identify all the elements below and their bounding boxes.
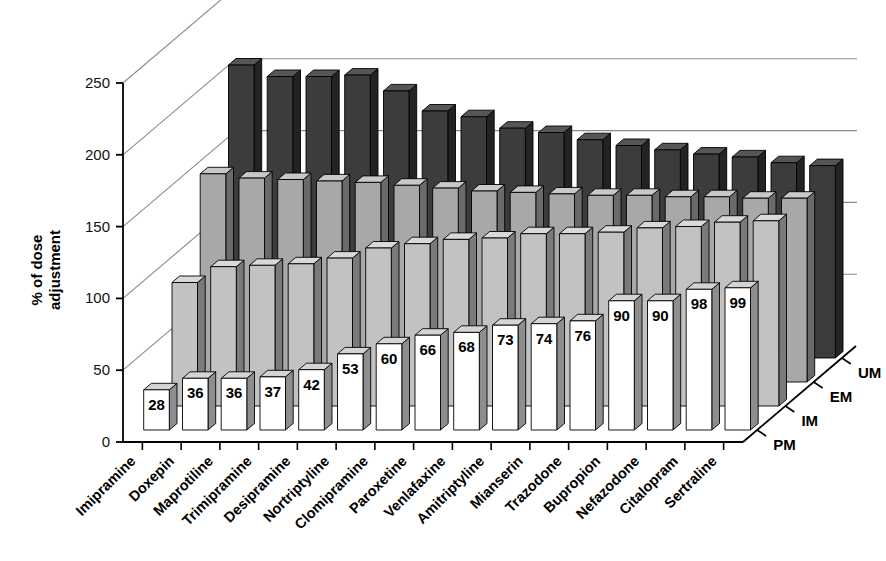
bar-side-PM-7 [441,329,449,430]
y-axis-tick-label: 250 [85,74,110,91]
bar-side-PM-3 [286,370,294,430]
y-axis-title-group: % of doseadjustment [28,230,63,310]
bar-side-PM-6 [402,337,410,430]
depth-axis-tick [785,406,794,412]
bar-value-label-5: 53 [342,360,359,377]
bar-value-label-9: 73 [497,331,514,348]
x-axis-category-label-0: Imipramine [72,453,138,519]
bar-side-PM-9 [518,319,526,430]
bar-value-label-15: 99 [729,294,746,311]
y-axis-title-line1: % of dose [28,235,45,306]
gridline-diagonal [123,0,236,83]
bar-value-label-3: 37 [264,383,281,400]
gridline-diagonal [123,59,236,155]
bar-value-label-10: 74 [536,330,553,347]
bar-value-label-0: 28 [148,396,165,413]
depth-axis-label-IM: IM [801,412,818,429]
depth-axis-label-UM: UM [858,364,881,381]
depth-axis-label-EM: EM [830,388,853,405]
bar-side-PM-10 [557,317,565,430]
bar-value-label-4: 42 [303,376,320,393]
bar-side-PM-12 [634,294,642,430]
bar-value-label-12: 90 [613,307,630,324]
bar-side-PM-11 [596,314,604,430]
y-axis-tick-label: 150 [85,218,110,235]
bar-side-EM-15 [807,192,815,382]
bar-value-label-11: 76 [574,327,591,344]
chart-figure: 050100150200250% of doseadjustment999890… [0,0,886,561]
y-axis-tick-label: 100 [85,289,110,306]
bar-side-PM-8 [479,326,487,430]
depth-axis-label-PM: PM [773,436,796,453]
bar-chart-3d: 050100150200250% of doseadjustment999890… [0,0,886,561]
bar-side-PM-4 [324,363,332,430]
bar-side-PM-14 [712,283,720,430]
bar-value-label-2: 36 [226,384,243,401]
y-axis-title-line2: adjustment [46,230,63,310]
bar-side-PM-5 [363,347,371,430]
bar-value-label-7: 66 [419,341,436,358]
bar-side-PM-0 [169,383,177,430]
bar-value-label-13: 90 [652,307,669,324]
x-axis-category-label-9: Amitriptyline [413,453,487,527]
depth-axis-tick [814,382,823,388]
depth-axis-tick [757,430,766,436]
bar-value-label-6: 60 [381,350,398,367]
depth-axis-tick [842,358,851,364]
bar-side-PM-1 [208,372,216,430]
bar-side-UM-15 [835,159,843,358]
y-axis-tick-label: 50 [93,361,110,378]
bar-side-PM-2 [247,372,255,430]
bar-value-label-14: 98 [691,295,708,312]
y-axis-tick-label: 0 [102,433,110,450]
bar-value-label-1: 36 [187,384,204,401]
bar-value-label-8: 68 [458,338,475,355]
y-axis-tick-label: 200 [85,146,110,163]
bar-side-PM-13 [673,294,681,430]
bar-side-PM-15 [751,281,759,430]
bar-side-IM-15 [779,214,787,406]
